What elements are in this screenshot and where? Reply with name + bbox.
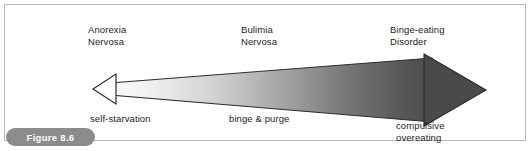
- label-line-2: Nervosa: [241, 36, 277, 47]
- arrow-head-right: [424, 54, 486, 126]
- figure-container: AnorexiaNervosa BulimiaNervosa Binge-eat…: [0, 0, 532, 151]
- label-line-1: self-starvation: [90, 113, 151, 124]
- label-line-2: overeating: [396, 132, 441, 143]
- label-behavior-binge-purge: binge & purge: [229, 113, 289, 125]
- label-disorder-binge-eating: Binge-eatingDisorder: [390, 24, 445, 47]
- label-disorder-anorexia: AnorexiaNervosa: [88, 24, 126, 47]
- figure-number-badge: Figure 8.6: [6, 128, 95, 146]
- label-disorder-bulimia: BulimiaNervosa: [241, 24, 277, 47]
- label-line-1: binge & purge: [229, 113, 289, 124]
- label-line-2: Disorder: [390, 36, 427, 47]
- label-line-2: Nervosa: [88, 36, 124, 47]
- label-line-1: Bulimia: [241, 24, 273, 35]
- label-line-1: Anorexia: [88, 24, 126, 35]
- arrow-head-left: [93, 74, 116, 104]
- label-line-1: compulsive: [396, 120, 445, 131]
- label-behavior-compulsive-overeating: compulsiveovereating: [396, 120, 445, 143]
- label-line-1: Binge-eating: [390, 24, 445, 35]
- label-behavior-self-starvation: self-starvation: [90, 113, 151, 125]
- figure-number-label: Figure 8.6: [27, 132, 75, 143]
